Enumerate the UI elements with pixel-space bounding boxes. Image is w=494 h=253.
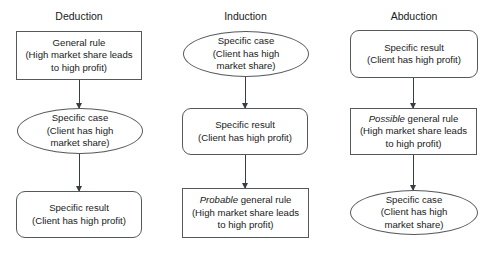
induction-node-specific-result-label: Specific result (Client has high profit) <box>194 119 296 144</box>
induction-node-specific-case: Specific case (Client has high market sh… <box>183 31 309 77</box>
deduction-node-general-rule-label: General rule (High market share leads to… <box>21 37 136 74</box>
induction-arrow-2 <box>245 155 246 188</box>
abduction-emphasis-word: Possible <box>369 113 405 124</box>
induction-emphasis-word: Probable <box>200 194 238 205</box>
deduction-node-specific-case-label: Specific case (Client has high market sh… <box>43 112 118 149</box>
abduction-node-possible-general-rule-label: Possible general rule (High market share… <box>356 113 471 150</box>
reasoning-diagram: Deduction General rule (High market shar… <box>0 0 494 253</box>
induction-node-probable-general-rule-label: Probable general rule (High market share… <box>188 194 303 231</box>
induction-node-specific-case-label: Specific case (Client has high market sh… <box>209 35 284 72</box>
induction-node-probable-general-rule: Probable general rule (High market share… <box>182 188 309 238</box>
deduction-node-specific-result-label: Specific result (Client has high profit) <box>28 202 130 227</box>
abduction-node-specific-result-label: Specific result (Client has high profit) <box>363 42 465 67</box>
abduction-node-specific-result: Specific result (Client has high profit) <box>350 30 478 78</box>
column-title-abduction: Abduction <box>350 10 478 22</box>
deduction-node-general-rule: General rule (High market share leads to… <box>16 31 142 80</box>
abduction-node-specific-case-label: Specific case (Client has high market sh… <box>377 194 452 231</box>
abduction-arrow-1 <box>413 78 414 108</box>
deduction-node-specific-result: Specific result (Client has high profit) <box>16 191 142 238</box>
column-title-deduction: Deduction <box>16 10 142 22</box>
deduction-arrow-1 <box>79 80 80 108</box>
abduction-node-possible-general-rule: Possible general rule (High market share… <box>350 108 477 155</box>
column-title-induction: Induction <box>182 10 309 22</box>
abduction-arrow-2 <box>413 155 414 190</box>
induction-arrow-1 <box>245 77 246 108</box>
induction-node-specific-result: Specific result (Client has high profit) <box>182 108 308 155</box>
abduction-node-specific-case: Specific case (Client has high market sh… <box>350 190 478 235</box>
deduction-arrow-2 <box>79 154 80 191</box>
deduction-node-specific-case: Specific case (Client has high market sh… <box>17 108 143 154</box>
